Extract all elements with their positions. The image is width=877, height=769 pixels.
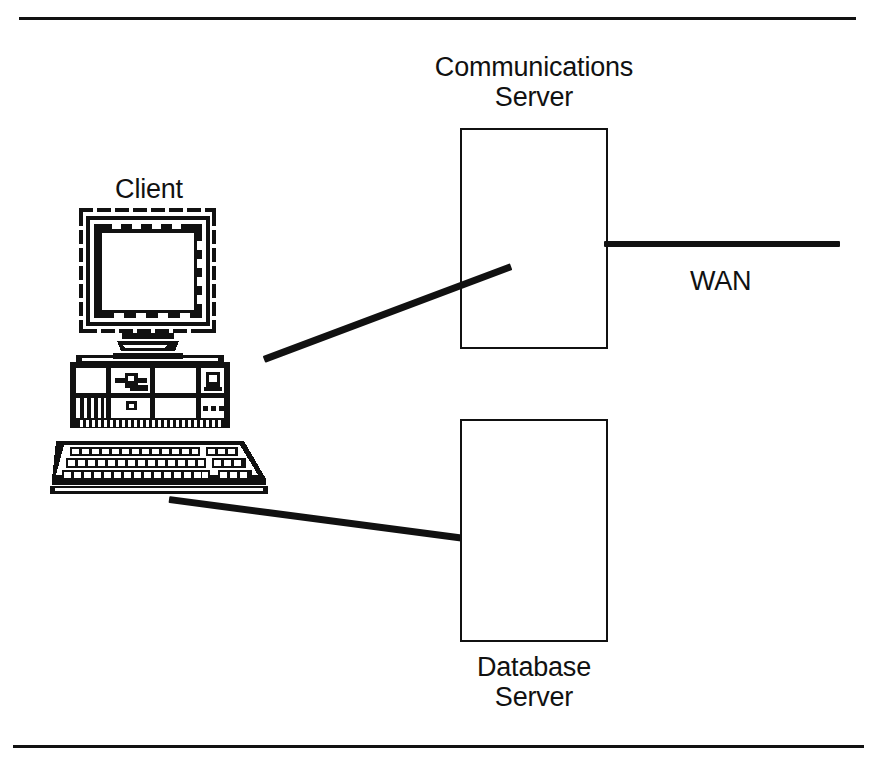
figure-top-rule bbox=[19, 17, 856, 20]
wan-label: WAN bbox=[690, 266, 860, 296]
communications-server-box bbox=[460, 128, 608, 349]
client-label: Client bbox=[59, 174, 239, 204]
network-diagram-figure: Communications Server WAN Client bbox=[0, 0, 877, 769]
client-to-database-server-link bbox=[169, 496, 505, 547]
database-server-box bbox=[460, 419, 608, 642]
figure-bottom-rule bbox=[13, 745, 864, 748]
database-server-label: Database Server bbox=[384, 652, 684, 712]
wan-link-line bbox=[604, 241, 840, 247]
communications-server-label: Communications Server bbox=[384, 52, 684, 112]
desktop-computer-icon bbox=[30, 205, 270, 497]
